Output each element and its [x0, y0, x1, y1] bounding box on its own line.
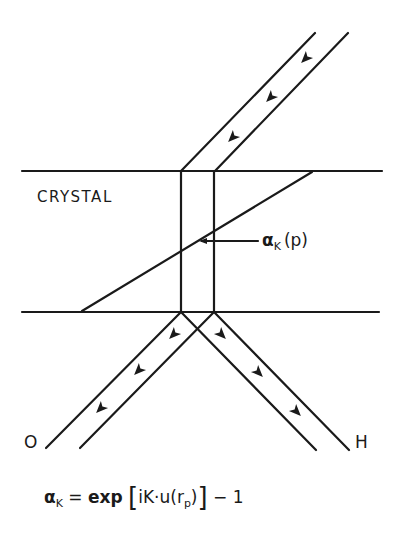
formula-alpha: α: [44, 487, 56, 507]
o-beam-label: O: [24, 432, 37, 452]
h-beam-left-edge: [181, 312, 316, 450]
h-beam-arrow-icon: [214, 327, 230, 343]
h-beam-right-edge: [214, 312, 349, 450]
formula-inner-close: ): [191, 487, 198, 507]
diffraction-diagram: [0, 0, 402, 548]
incident-arrow-icon: [225, 130, 241, 146]
o-beam-left-edge: [46, 312, 181, 448]
formula-equals: =: [68, 487, 82, 507]
alpha-subscript: K: [274, 240, 281, 253]
incident-arrow-icon: [298, 51, 314, 67]
h-beam-arrow-icon: [251, 365, 267, 381]
formula-inner-subscript: p: [184, 497, 191, 510]
phase-formula: αK = exp [iK·u(rp)] − 1: [44, 482, 244, 512]
formula-func: exp: [88, 487, 123, 507]
h-beam-arrow-icon: [289, 404, 305, 420]
incident-beam-left-edge: [181, 33, 315, 171]
fault-phase-label: αK(p): [262, 230, 308, 253]
formula-inner: iK·u(r: [138, 487, 184, 507]
formula-open-bracket: [: [128, 482, 138, 512]
o-beam-right-edge: [80, 312, 214, 448]
incident-beam-right-edge: [215, 33, 348, 171]
formula-close-bracket: ]: [198, 482, 208, 512]
h-beam-label: H: [355, 432, 368, 452]
o-beam-arrow-icon: [131, 363, 147, 379]
o-beam-arrow-icon: [166, 327, 182, 343]
o-beam-arrow-icon: [93, 401, 109, 417]
formula-tail: − 1: [213, 487, 243, 507]
crystal-label: CRYSTAL: [37, 188, 113, 206]
formula-alpha-subscript: K: [56, 497, 63, 510]
alpha-symbol: α: [262, 230, 274, 250]
incident-arrow-icon: [263, 90, 279, 106]
alpha-argument: (p): [284, 230, 308, 250]
